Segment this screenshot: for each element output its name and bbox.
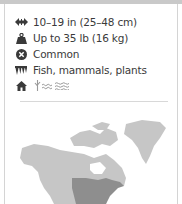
fact-status-text: Common [33,48,79,60]
fact-status: Common [14,46,147,62]
range-area [72,178,124,204]
divider [20,101,168,102]
fact-habitat [14,78,147,94]
fact-length-text: 10–19 in (25–48 cm) [33,16,137,28]
habitat-home-icon [14,80,28,92]
status-common-icon [14,48,28,60]
fact-weight: Up to 35 lb (16 kg) [14,30,147,46]
range-map [14,108,174,204]
length-arrows-icon [14,16,28,28]
fact-weight-text: Up to 35 lb (16 kg) [33,32,128,44]
diet-teeth-icon [14,64,28,76]
facts-list: 10–19 in (25–48 cm) Up to 35 lb (16 kg) … [14,14,147,94]
water-icon [42,80,52,92]
fact-diet: Fish, mammals, plants [14,62,147,78]
fact-length: 10–19 in (25–48 cm) [14,14,147,30]
weight-icon [14,32,28,44]
fact-diet-text: Fish, mammals, plants [33,64,147,76]
grassland-icon [34,80,41,93]
wetland-icon [55,80,69,92]
